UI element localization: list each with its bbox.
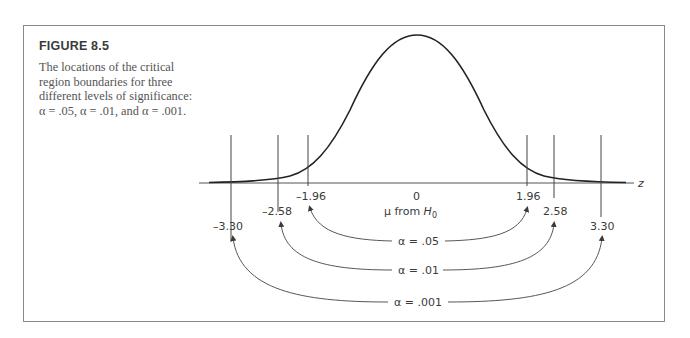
arrow-alpha001-left	[233, 238, 388, 302]
arrow-alpha05-left	[310, 208, 392, 241]
tick-label-zero: 0	[413, 190, 420, 203]
center-label: μ from H0	[384, 205, 437, 220]
z-axis-label: z	[637, 177, 644, 190]
arrow-alpha01-right	[443, 224, 554, 270]
arrow-alpha01-left	[281, 224, 392, 270]
tick-label-neg330: –3.30	[213, 220, 243, 233]
tick-label-neg196: –1.96	[296, 190, 326, 203]
arrow-alpha001-right	[448, 238, 602, 302]
tick-label-pos258: 2.58	[543, 205, 568, 218]
alpha001-label: α = .001	[394, 296, 442, 309]
alpha01-label: α = .01	[398, 264, 439, 277]
tick-label-pos330: 3.30	[590, 220, 615, 233]
normal-curve	[209, 35, 626, 183]
normal-distribution-diagram: z –1.96 –2.58 –3.30 0 μ from H0 1.96 2.5…	[0, 0, 690, 338]
tick-label-neg258: –2.58	[262, 205, 292, 218]
arrow-alpha05-right	[445, 209, 527, 241]
alpha05-label: α = .05	[398, 235, 439, 248]
tick-label-pos196: 1.96	[516, 190, 541, 203]
